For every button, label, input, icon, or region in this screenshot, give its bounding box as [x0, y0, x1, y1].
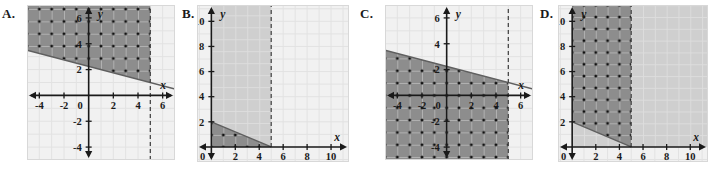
panel-label-b: B.: [182, 6, 195, 22]
x-tick-label: 4: [257, 151, 263, 162]
x-tick-label: -2: [60, 100, 69, 111]
origin-label: 0: [435, 100, 440, 111]
y-tick-label: 4: [76, 39, 82, 50]
x-tick-label: 8: [304, 151, 309, 162]
y-axis-label: y: [218, 8, 226, 21]
y-tick-label: 6: [560, 66, 565, 77]
panel-label-a: A.: [2, 6, 15, 22]
y-tick-label: -2: [73, 116, 82, 127]
origin-label: 0: [77, 100, 82, 111]
panel-label-d: D.: [540, 6, 553, 22]
x-tick-label: 8: [664, 151, 669, 162]
graph-b-plot-area: 2468102468100xy: [197, 5, 349, 162]
y-tick-label: 2: [434, 64, 439, 75]
graph-d-plot-area: 2468102468100xy: [558, 5, 708, 162]
x-tick-label: 4: [493, 100, 499, 111]
y-tick-label: 10: [197, 16, 204, 27]
graph-b-canvas: 2468102468100xy: [197, 5, 349, 162]
x-tick-label: -2: [418, 100, 427, 111]
y-tick-label: 6: [76, 13, 81, 24]
answer-choice-figure-row: A. -4-2246-4-22460xy B. 2468102468100xy …: [0, 0, 715, 173]
x-tick-label: 4: [135, 100, 141, 111]
answer-choice-panel-b[interactable]: B. 2468102468100xy: [180, 0, 358, 173]
y-tick-label: -4: [73, 142, 82, 153]
x-tick-label: 6: [518, 100, 523, 111]
x-tick-label: 6: [160, 100, 165, 111]
graph-b-svg: 2468102468100xy: [197, 5, 349, 162]
y-axis-label: y: [96, 8, 104, 21]
x-tick-label: 10: [685, 151, 696, 162]
y-axis-label: y: [454, 8, 462, 21]
graph-c-plot-area: -4-2246-4-22460xy: [385, 5, 533, 160]
y-tick-label: 2: [560, 117, 565, 128]
panel-label-c: C.: [360, 6, 373, 22]
y-tick-label: -2: [431, 116, 440, 127]
y-tick-label: 6: [199, 66, 204, 77]
x-tick-label: 2: [593, 151, 598, 162]
graph-a-svg: -4-2246-4-22460xy: [27, 5, 175, 160]
y-tick-label: 6: [434, 13, 439, 24]
y-tick-label: 2: [199, 117, 204, 128]
graph-d-svg: 2468102468100xy: [558, 5, 708, 162]
x-tick-label: 2: [111, 100, 116, 111]
origin-label: 0: [200, 151, 205, 162]
x-tick-label: -4: [35, 100, 44, 111]
graph-a-canvas: -4-2246-4-22460xy: [27, 5, 175, 160]
answer-choice-panel-c[interactable]: C. -4-2246-4-22460xy: [358, 0, 538, 173]
graph-c-svg: -4-2246-4-22460xy: [385, 5, 533, 160]
x-tick-label: 6: [281, 151, 286, 162]
y-axis-label: y: [579, 8, 587, 21]
y-tick-label: 4: [434, 39, 440, 50]
x-axis-label: x: [692, 131, 699, 143]
x-tick-label: 6: [640, 151, 645, 162]
x-tick-label: 4: [617, 151, 623, 162]
x-axis-label: x: [517, 79, 524, 91]
graph-a-plot-area: -4-2246-4-22460xy: [27, 5, 175, 160]
y-tick-label: 2: [76, 64, 81, 75]
x-axis-label: x: [159, 79, 166, 91]
y-tick-label: -4: [431, 142, 440, 153]
x-tick-label: -4: [393, 100, 402, 111]
x-tick-label: 2: [469, 100, 474, 111]
answer-choice-panel-a[interactable]: A. -4-2246-4-22460xy: [0, 0, 180, 173]
shaded-regions: [572, 5, 708, 147]
graph-d-canvas: 2468102468100xy: [558, 5, 708, 162]
x-tick-label: 10: [326, 151, 337, 162]
x-axis-label: x: [333, 131, 340, 143]
y-tick-label: 8: [199, 41, 204, 52]
answer-choice-panel-d[interactable]: D. 2468102468100xy: [538, 0, 715, 173]
graph-c-canvas: -4-2246-4-22460xy: [385, 5, 533, 160]
y-tick-label: 4: [560, 91, 566, 102]
y-tick-label: 8: [560, 41, 565, 52]
y-tick-label: 4: [199, 91, 205, 102]
y-tick-label: 10: [558, 16, 565, 27]
origin-label: 0: [561, 151, 566, 162]
x-tick-label: 2: [233, 151, 238, 162]
